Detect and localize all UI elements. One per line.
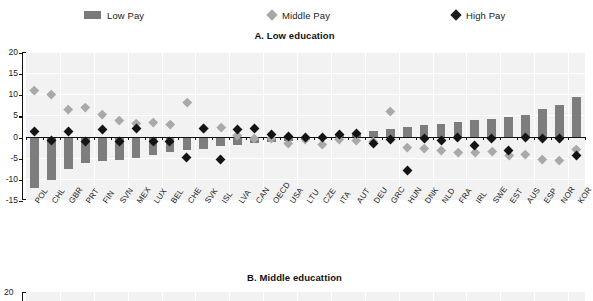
x-axis-tick bbox=[111, 137, 112, 140]
bar-fin bbox=[98, 137, 107, 161]
x-axis-tick bbox=[449, 137, 450, 140]
panel-a-y-axis-labels: 20151050-5-10-15 bbox=[0, 52, 20, 200]
x-axis-tick bbox=[585, 137, 586, 140]
gridline-vertical bbox=[128, 292, 129, 301]
x-axis-tick bbox=[551, 137, 552, 140]
gridline-vertical bbox=[297, 52, 298, 200]
gridline-vertical bbox=[466, 52, 467, 200]
gridline-vertical bbox=[60, 52, 61, 200]
legend-label-high-pay: High Pay bbox=[466, 10, 505, 21]
bar-esp bbox=[538, 109, 547, 136]
gridline-vertical bbox=[365, 292, 366, 301]
marker-middle-pay-esp bbox=[538, 154, 547, 163]
legend-item-low-pay: Low Pay bbox=[84, 6, 144, 24]
panel-a-plot-area bbox=[26, 52, 585, 200]
x-axis-tick bbox=[568, 137, 569, 140]
y-axis-label: 15 bbox=[9, 69, 18, 78]
bar-mex bbox=[132, 137, 141, 158]
bar-swatch-icon bbox=[84, 11, 101, 19]
marker-middle-pay-dnk bbox=[419, 144, 428, 153]
gridline-vertical bbox=[297, 292, 298, 301]
y-axis-label: 20 bbox=[9, 48, 18, 57]
marker-high-pay-che bbox=[182, 152, 192, 162]
gridline-vertical bbox=[94, 292, 95, 301]
x-axis-tick bbox=[178, 137, 179, 140]
gridline-vertical bbox=[229, 52, 230, 200]
panel-b-y-top-label: 20 bbox=[4, 287, 13, 297]
marker-high-pay-isl bbox=[216, 154, 226, 164]
marker-high-pay-svk bbox=[199, 123, 209, 133]
x-axis-tick bbox=[483, 137, 484, 140]
x-axis-tick bbox=[297, 137, 298, 140]
gridline-vertical bbox=[365, 52, 366, 200]
y-axis-label: -10 bbox=[6, 175, 18, 184]
x-axis-tick bbox=[77, 137, 78, 140]
x-axis-tick bbox=[382, 137, 383, 140]
bar-isl bbox=[216, 137, 225, 146]
panel-b-title: B. Middle educattion bbox=[0, 272, 589, 283]
gridline-vertical bbox=[534, 292, 535, 301]
marker-high-pay-hun bbox=[402, 165, 412, 175]
legend-item-high-pay: High Pay bbox=[452, 6, 505, 24]
marker-middle-pay-nld bbox=[436, 145, 445, 154]
y-axis-label: 10 bbox=[9, 90, 18, 99]
x-axis-tick bbox=[162, 137, 163, 140]
bar-pol bbox=[30, 137, 39, 189]
marker-middle-pay-fra bbox=[453, 147, 462, 156]
gridline-vertical bbox=[60, 292, 61, 301]
x-axis-tick bbox=[500, 137, 501, 140]
gridline-vertical bbox=[331, 52, 332, 200]
legend-label-low-pay: Low Pay bbox=[107, 10, 144, 21]
y-axis-label: 0 bbox=[13, 133, 18, 142]
legend-label-middle-pay: Middle Pay bbox=[282, 10, 330, 21]
marker-middle-pay-pol bbox=[30, 85, 39, 94]
y-axis-label: -5 bbox=[10, 154, 18, 163]
y-axis-tick bbox=[19, 159, 23, 160]
marker-middle-pay-isl bbox=[216, 123, 225, 132]
x-axis-tick bbox=[534, 137, 535, 140]
gridline-vertical bbox=[162, 292, 163, 301]
panel-a-x-axis-labels: POLCHLGBRPRTFINSVNMEXLUXBELCHESVKISLLVAC… bbox=[26, 200, 585, 252]
gridline-vertical bbox=[128, 52, 129, 200]
x-axis-tick bbox=[145, 137, 146, 140]
gridline-vertical bbox=[331, 292, 332, 301]
x-axis-tick bbox=[246, 137, 247, 140]
y-axis-tick bbox=[19, 116, 23, 117]
gridline-vertical bbox=[195, 52, 196, 200]
gridline-vertical bbox=[433, 292, 434, 301]
x-axis-tick bbox=[416, 137, 417, 140]
panel-a-title: A. Low education bbox=[0, 30, 589, 41]
x-axis-tick bbox=[466, 137, 467, 140]
bar-kor bbox=[572, 97, 581, 137]
x-axis-tick bbox=[331, 137, 332, 140]
x-axis-tick bbox=[399, 137, 400, 140]
bar-hun bbox=[403, 127, 412, 137]
y-axis-tick bbox=[19, 95, 23, 96]
x-axis-tick bbox=[517, 137, 518, 140]
x-axis-tick bbox=[433, 137, 434, 140]
marker-high-pay-kor bbox=[572, 151, 582, 161]
x-axis-tick bbox=[60, 137, 61, 140]
bar-gbr bbox=[64, 137, 73, 169]
marker-middle-pay-lux bbox=[148, 117, 157, 126]
gridline-vertical bbox=[466, 292, 467, 301]
marker-middle-pay-fin bbox=[98, 110, 107, 119]
y-axis-tick bbox=[19, 201, 23, 202]
y-axis-tick bbox=[19, 138, 23, 139]
y-axis-label: -15 bbox=[6, 196, 18, 205]
marker-middle-pay-che bbox=[182, 97, 191, 106]
bar-svk bbox=[199, 137, 208, 150]
marker-high-pay-pol bbox=[30, 127, 40, 137]
x-axis-tick bbox=[365, 137, 366, 140]
x-axis-tick bbox=[280, 137, 281, 140]
marker-high-pay-irl bbox=[470, 140, 480, 150]
marker-high-pay-can bbox=[250, 124, 260, 134]
y-axis-tick bbox=[19, 53, 23, 54]
gridline-vertical bbox=[263, 52, 264, 200]
x-axis-tick bbox=[26, 137, 27, 140]
x-axis-tick bbox=[94, 137, 95, 140]
gridline-vertical bbox=[399, 292, 400, 301]
y-axis-tick bbox=[19, 180, 23, 181]
marker-high-pay-gbr bbox=[63, 127, 73, 137]
gridline-vertical bbox=[399, 52, 400, 200]
